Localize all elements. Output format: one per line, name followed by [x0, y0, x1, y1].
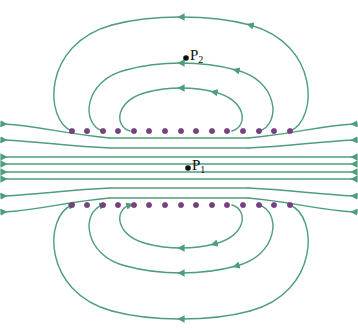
inner-arc-upper-apex-l — [148, 88, 181, 92]
point-label-p2: P2 — [190, 48, 203, 65]
point-label-p2-subscript: 2 — [198, 54, 203, 65]
solenoid-field-figure: P2 P1 — [0, 0, 358, 330]
current-dot — [178, 128, 183, 133]
outer-arc-lower-apex-r — [181, 311, 250, 319]
outer-arc-upper-apex-r — [181, 17, 250, 25]
interior-line-8-right — [248, 198, 354, 212]
magnetic-field-canvas — [0, 0, 358, 330]
current-dot — [146, 128, 151, 133]
current-dot — [115, 202, 120, 207]
current-dot — [256, 128, 261, 133]
middle-arc-upper-apex-l — [126, 63, 181, 70]
current-dot — [162, 128, 167, 133]
interior-field-lines — [4, 124, 354, 212]
point-label-p1: P1 — [192, 158, 205, 175]
current-dot — [256, 202, 261, 207]
current-dot — [100, 128, 105, 133]
current-dot — [146, 202, 151, 207]
current-dot-row-lower — [69, 202, 292, 207]
current-dot — [69, 128, 74, 133]
current-dot — [209, 128, 214, 133]
current-dot — [224, 202, 229, 207]
middle-arc-lower-apex-r — [181, 266, 236, 273]
current-dot — [100, 202, 105, 207]
current-dot — [287, 128, 292, 133]
interior-line-7-left — [4, 188, 110, 196]
outer-arc-lower-apex-l — [112, 311, 181, 319]
inner-arc-upper-left — [120, 92, 148, 131]
outer-arc-upper-left — [54, 25, 112, 131]
inner-arc-lower-apex-l — [148, 244, 181, 248]
outer-arc-upper-apex-l — [112, 17, 181, 25]
interior-line-7-right — [248, 188, 354, 196]
exterior-field-arcs-upper — [54, 17, 308, 131]
current-dot — [193, 128, 198, 133]
current-dot — [271, 202, 276, 207]
current-dot — [69, 202, 74, 207]
current-dot — [84, 202, 89, 207]
inner-arc-lower-left — [120, 205, 148, 244]
current-dot — [162, 202, 167, 207]
field-point-markers — [183, 55, 191, 171]
outer-arc-lower-right — [250, 205, 308, 311]
current-dot — [240, 128, 245, 133]
current-dot — [224, 128, 229, 133]
outer-arc-upper-right — [250, 25, 308, 131]
current-dot — [240, 202, 245, 207]
inner-arc-lower-right — [214, 205, 242, 244]
current-dot — [131, 128, 136, 133]
point-marker-p1 — [185, 165, 191, 171]
exterior-field-arcs-lower — [54, 205, 308, 319]
point-marker-p2 — [183, 55, 189, 61]
inner-arc-lower-apex-r — [181, 244, 214, 248]
inner-arc-upper-apex-r — [181, 88, 214, 92]
point-label-p1-subscript: 1 — [200, 164, 205, 175]
current-dot — [193, 202, 198, 207]
inner-arc-upper-right — [214, 92, 242, 131]
outer-arc-lower-left — [54, 205, 112, 311]
current-dot — [209, 202, 214, 207]
interior-line-2-right — [248, 140, 354, 148]
current-dot — [84, 128, 89, 133]
middle-arc-lower-apex-l — [126, 266, 181, 273]
current-dot — [271, 128, 276, 133]
current-dot — [131, 202, 136, 207]
current-dot — [287, 202, 292, 207]
current-dot-row-upper — [69, 128, 292, 133]
interior-line-1-right — [248, 124, 354, 138]
current-dot — [115, 128, 120, 133]
interior-line-2-left — [4, 140, 110, 148]
current-dot — [178, 202, 183, 207]
